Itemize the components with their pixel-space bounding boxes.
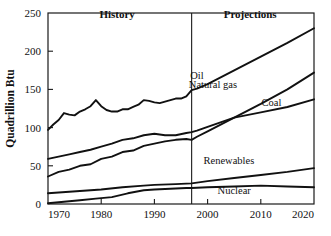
series-label-nuclear: Nuclear (218, 185, 252, 196)
x-tick-label-2000: 2000 (197, 208, 220, 220)
period-labels: HistoryProjections (99, 8, 277, 20)
y-tick-labels: 050100150200250 (25, 7, 42, 210)
x-tick-label-2010: 2010 (250, 208, 273, 220)
y-tick-label-0: 0 (36, 198, 42, 210)
y-axis-ticks (48, 51, 53, 166)
x-tick-labels: 197019801990200020102020 (48, 208, 315, 220)
x-tick-label-1990: 1990 (143, 208, 166, 220)
series-line-nuclear (48, 186, 314, 204)
y-tick-label-100: 100 (25, 122, 42, 134)
x-tick-label-2020: 2020 (292, 208, 315, 220)
series-line-renewables (48, 168, 314, 193)
series-line-oil (48, 28, 314, 130)
period-label-projections: Projections (224, 8, 278, 20)
y-tick-label-250: 250 (25, 7, 42, 19)
series-lines (48, 28, 314, 203)
period-label-history: History (99, 8, 135, 20)
series-label-coal: Coal (262, 97, 282, 108)
series-label-natural-gas: Natural gas (189, 79, 237, 90)
y-axis-title: Quadrillion Btu (4, 69, 16, 148)
x-tick-label-1970: 1970 (48, 208, 71, 220)
series-line-natural-gas (48, 73, 314, 177)
y-tick-label-150: 150 (25, 83, 42, 95)
y-tick-label-50: 50 (30, 160, 42, 172)
y-tick-label-200: 200 (25, 45, 42, 57)
x-axis-ticks (101, 199, 261, 204)
energy-consumption-chart: 050100150200250 197019801990200020102020… (0, 0, 331, 236)
x-tick-label-1980: 1980 (90, 208, 113, 220)
series-label-renewables: Renewables (204, 155, 255, 166)
chart-svg: 050100150200250 197019801990200020102020… (0, 0, 331, 236)
